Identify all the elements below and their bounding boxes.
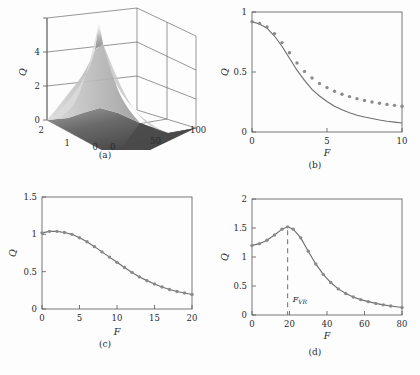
data-curve-theory — [252, 22, 402, 123]
data-point — [250, 20, 253, 23]
data-point — [352, 295, 355, 298]
panel-b-xlabel: F — [323, 147, 331, 158]
x-tick-label: 5 — [324, 136, 329, 146]
data-point — [393, 104, 396, 107]
data-point — [153, 282, 156, 285]
data-point — [295, 61, 298, 64]
data-point — [378, 102, 381, 105]
x-tick-label: 60 — [359, 319, 370, 329]
panel-c-svg: 0510152000.511.5 F Q — [0, 187, 210, 339]
data-point — [280, 227, 283, 230]
panel-d-series — [250, 225, 403, 309]
panel-a-alphatick-2: 2 — [39, 125, 44, 135]
panel-d-caption: (d) — [210, 347, 420, 357]
data-point — [374, 302, 377, 305]
panel-a-z-axis: 0 2 4 Q — [17, 18, 47, 125]
data-point — [348, 95, 351, 98]
data-point — [337, 287, 340, 290]
x-tick-label: 40 — [322, 319, 333, 329]
data-point — [250, 244, 253, 247]
panel-d-svg: 02040608000.511.52 FVR F Q — [210, 187, 420, 347]
data-point — [100, 250, 103, 253]
panel-c-series — [40, 230, 193, 296]
data-point — [307, 250, 310, 253]
x-tick-label: 0 — [249, 136, 254, 146]
x-tick-label: 10 — [397, 136, 408, 146]
x-tick-label: 5 — [77, 313, 82, 323]
data-point — [299, 236, 302, 239]
data-point — [385, 103, 388, 106]
data-point — [400, 105, 403, 108]
panel-c-xlabel: F — [113, 326, 121, 337]
y-tick-label: 0 — [242, 127, 247, 137]
data-point — [130, 271, 133, 274]
data-point — [292, 227, 295, 230]
data-point — [108, 255, 111, 258]
data-point — [310, 76, 313, 79]
data-point — [400, 306, 403, 309]
data-point — [318, 82, 321, 85]
y-tick-label: 1 — [242, 7, 247, 17]
x-tick-label: 20 — [187, 313, 198, 323]
panel-a-caption: (a) — [0, 150, 210, 160]
data-point — [367, 300, 370, 303]
panel-a-ztick-2: 2 — [35, 81, 40, 91]
panel-c-ylabel: Q — [7, 249, 18, 257]
data-point — [85, 240, 88, 243]
x-tick-label: 0 — [249, 319, 254, 329]
panel-a-surface-plot: 0 2 4 Q 2 1 0 α 0 50 100 F (a) — [0, 0, 210, 188]
data-point — [333, 90, 336, 93]
y-tick-label: 1.5 — [233, 223, 247, 233]
data-point — [168, 288, 171, 291]
panel-c-line-chart: 0510152000.511.5 F Q (c) — [0, 187, 210, 375]
y-tick-label: 0 — [242, 310, 247, 320]
panel-a-ftick-50: 50 — [150, 136, 161, 146]
panel-a-ftick-0: 0 — [110, 142, 115, 150]
data-point — [258, 242, 261, 245]
data-point — [322, 273, 325, 276]
panel-b-svg: 051000.51 F Q — [210, 0, 420, 160]
data-point — [370, 100, 373, 103]
data-point — [160, 285, 163, 288]
data-point — [258, 22, 261, 25]
data-point — [78, 236, 81, 239]
data-point — [145, 279, 148, 282]
data-point — [280, 41, 283, 44]
figure-container: 0 2 4 Q 2 1 0 α 0 50 100 F (a) — [0, 0, 420, 375]
data-point — [340, 93, 343, 96]
data-point — [93, 245, 96, 248]
panel-b-ticks: 051000.51 — [233, 7, 407, 146]
data-point — [70, 233, 73, 236]
panel-d-line-chart: 02040608000.511.52 FVR F Q (d) — [210, 187, 420, 375]
data-point — [314, 262, 317, 265]
panel-d-ticks: 02040608000.511.52 — [233, 194, 407, 329]
data-point — [175, 290, 178, 293]
panel-b-axes — [252, 12, 402, 132]
y-tick-label: 0.5 — [233, 67, 247, 77]
data-point — [344, 292, 347, 295]
data-point — [183, 291, 186, 294]
fvr-label: FVR — [292, 295, 308, 305]
y-tick-label: 2 — [242, 194, 247, 204]
y-tick-label: 1 — [32, 229, 37, 239]
data-point — [359, 298, 362, 301]
y-tick-label: 0 — [32, 304, 37, 314]
data-point — [325, 86, 328, 89]
data-point — [329, 281, 332, 284]
panel-a-ztick-0: 0 — [35, 115, 40, 125]
surface-mesh — [47, 22, 196, 150]
data-point — [273, 32, 276, 35]
panel-b-line-chart: 051000.51 F Q (b) — [210, 0, 420, 188]
panel-a-alphatick-0: 0 — [93, 142, 98, 150]
panel-a-ftick-100: 100 — [190, 125, 206, 135]
x-tick-label: 10 — [112, 313, 123, 323]
panel-c-caption: (c) — [0, 339, 210, 349]
data-point — [273, 233, 276, 236]
data-point — [63, 231, 66, 234]
panel-d-ylabel: Q — [219, 253, 230, 261]
data-point — [355, 97, 358, 100]
panel-d-axes — [252, 199, 402, 315]
y-tick-label: 0.5 — [233, 281, 247, 291]
y-tick-label: 1 — [242, 252, 247, 262]
x-tick-label: 15 — [149, 313, 160, 323]
